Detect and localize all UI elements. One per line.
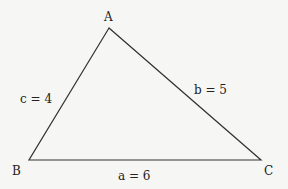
- triangle-diagram: A B C c = 4 b = 5 a = 6: [0, 0, 288, 189]
- side-label-c: c = 4: [20, 92, 52, 106]
- side-label-a: a = 6: [118, 169, 150, 183]
- side-label-b: b = 5: [194, 83, 227, 97]
- vertex-label-c: C: [264, 164, 273, 178]
- vertex-label-a: A: [103, 10, 113, 24]
- vertex-label-b: B: [12, 164, 21, 178]
